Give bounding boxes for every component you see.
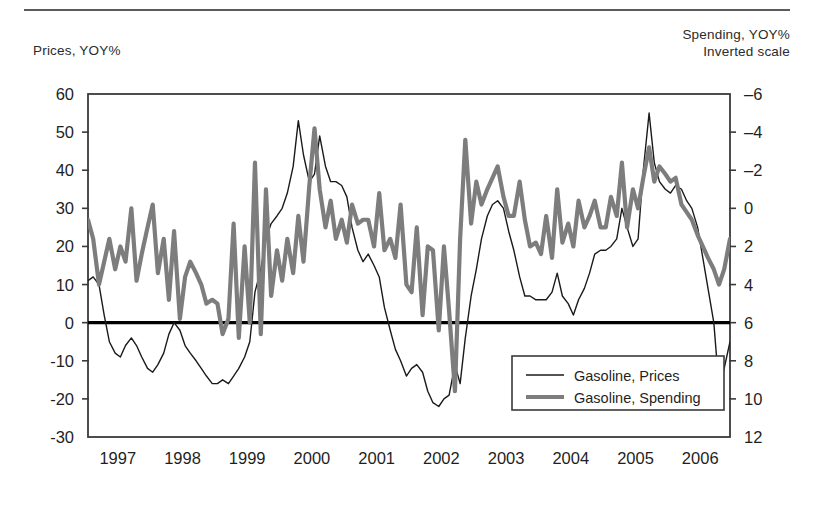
y2-tick-label: –6 [744, 85, 762, 103]
x-tick-label: 2001 [358, 449, 395, 467]
plot-area: -30-20-100102030405060–6–4–2024681012199… [0, 0, 814, 508]
series-line-spending [88, 128, 730, 391]
y-tick-label: -20 [50, 390, 74, 408]
x-tick-label: 2003 [488, 449, 525, 467]
y2-tick-label: 8 [744, 352, 753, 370]
chart-figure: Prices, YOY% Spending, YOY% Inverted sca… [0, 0, 814, 508]
y2-tick-label: –2 [744, 161, 762, 179]
y-tick-label: 20 [56, 237, 74, 255]
y2-tick-label: 10 [744, 390, 762, 408]
y-tick-label: -10 [50, 352, 74, 370]
y2-tick-label: 0 [744, 199, 753, 217]
y2-tick-label: 12 [744, 428, 762, 446]
x-tick-label: 2006 [682, 449, 719, 467]
x-tick-label: 2002 [423, 449, 460, 467]
y-tick-label: -30 [50, 428, 74, 446]
y2-tick-label: 6 [744, 314, 753, 332]
y-tick-label: 50 [56, 123, 74, 141]
y2-tick-label: 2 [744, 237, 753, 255]
y-tick-label: 40 [56, 161, 74, 179]
y-tick-label: 30 [56, 199, 74, 217]
x-tick-label: 2004 [552, 449, 589, 467]
x-tick-label: 2005 [617, 449, 654, 467]
y-tick-label: 10 [56, 276, 74, 294]
y-tick-label: 0 [65, 314, 74, 332]
y2-tick-label: 4 [744, 276, 753, 294]
y-tick-label: 60 [56, 85, 74, 103]
x-tick-label: 1999 [229, 449, 266, 467]
legend-group[interactable]: Gasoline, PricesGasoline, Spending [512, 356, 724, 410]
x-tick-label: 1998 [164, 449, 201, 467]
x-tick-label: 2000 [294, 449, 331, 467]
legend-label-prices: Gasoline, Prices [574, 368, 680, 384]
legend-label-spending: Gasoline, Spending [574, 390, 701, 406]
y2-tick-label: –4 [744, 123, 762, 141]
x-tick-label: 1997 [99, 449, 136, 467]
